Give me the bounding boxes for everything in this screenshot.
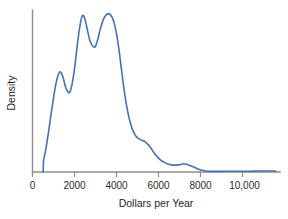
x-tick-label-2000: 2000 bbox=[63, 180, 86, 191]
x-tick-label-8000: 8000 bbox=[189, 180, 212, 191]
x-axis-group bbox=[33, 172, 281, 177]
y-axis-title: Density bbox=[5, 75, 17, 111]
x-tick-labels: 0 2000 4000 6000 8000 10,000 bbox=[30, 180, 261, 191]
x-tick-label-4000: 4000 bbox=[105, 180, 128, 191]
x-tick-label-6000: 6000 bbox=[147, 180, 170, 191]
x-axis-title: Dollars per Year bbox=[119, 197, 194, 209]
x-tick-label-10000: 10,000 bbox=[229, 180, 260, 191]
chart-canvas: 0 2000 4000 6000 8000 10,000 Dollars per… bbox=[0, 0, 288, 219]
density-curve bbox=[43, 14, 276, 172]
density-plot-figure: 0 2000 4000 6000 8000 10,000 Dollars per… bbox=[0, 0, 288, 219]
x-tick-label-0: 0 bbox=[30, 180, 36, 191]
